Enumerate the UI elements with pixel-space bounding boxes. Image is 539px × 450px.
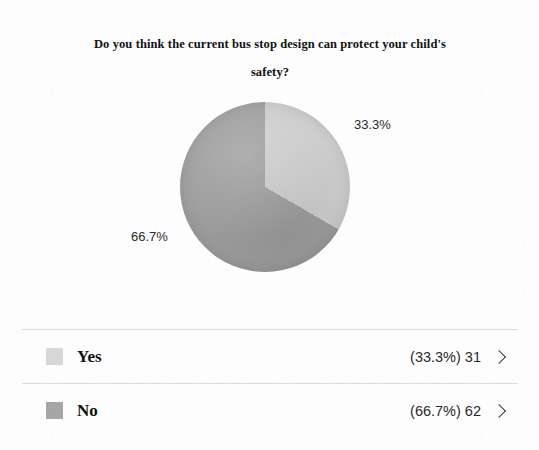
legend-swatch-yes — [46, 348, 63, 365]
legend-value-no: (66.7%) 62 — [410, 403, 481, 419]
pie-slices — [180, 102, 350, 272]
chevron-right-icon[interactable] — [492, 349, 506, 363]
chart-title: Do you think the current bus stop design… — [52, 30, 488, 86]
pie-label-yes-percent: 33.3% — [354, 117, 391, 132]
chart-title-line-2: safety? — [52, 58, 488, 86]
legend-row-no[interactable]: No (66.7%) 62 — [22, 384, 518, 437]
legend-value-yes: (33.3%) 31 — [410, 349, 481, 365]
legend-label-no: No — [77, 401, 98, 421]
legend: Yes (33.3%) 31 No (66.7%) 62 — [22, 329, 518, 437]
pie-chart — [180, 102, 350, 272]
legend-row-yes[interactable]: Yes (33.3%) 31 — [22, 330, 518, 383]
legend-label-yes: Yes — [77, 347, 102, 367]
chart-title-line-1: Do you think the current bus stop design… — [52, 30, 488, 58]
legend-swatch-no — [46, 402, 63, 419]
chevron-right-icon[interactable] — [492, 403, 506, 417]
pie-label-no-percent: 66.7% — [131, 229, 168, 244]
legend-right-no: (66.7%) 62 — [410, 403, 510, 419]
legend-right-yes: (33.3%) 31 — [410, 349, 510, 365]
